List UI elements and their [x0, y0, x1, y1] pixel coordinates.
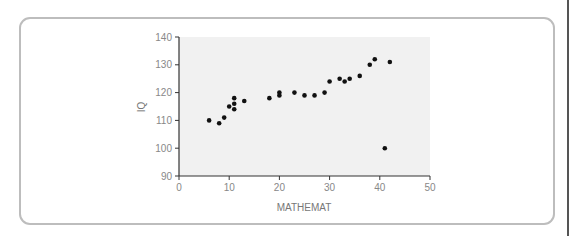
x-tick-label: 10: [224, 182, 236, 193]
data-point: [388, 60, 393, 65]
x-axis: 01020304050: [176, 176, 436, 193]
x-axis-title: MATHEMAT: [277, 202, 332, 213]
data-point: [372, 57, 377, 62]
data-point: [232, 101, 237, 106]
data-point: [327, 79, 332, 84]
data-point: [342, 79, 347, 84]
data-point: [217, 121, 222, 126]
data-point: [367, 63, 372, 68]
y-axis-title: IQ: [136, 102, 147, 113]
x-tick-label: 0: [176, 182, 182, 193]
y-tick-label: 90: [161, 171, 173, 182]
x-tick-label: 30: [324, 182, 336, 193]
y-tick-label: 110: [156, 115, 172, 126]
data-point: [292, 90, 297, 95]
scatter-plot: 90100110120130140 01020304050 MATHEMAT I…: [0, 0, 570, 236]
data-point: [277, 93, 282, 98]
data-point: [242, 99, 247, 104]
data-point: [347, 76, 352, 81]
data-point: [357, 74, 362, 79]
data-point: [232, 107, 237, 112]
data-point: [222, 115, 227, 120]
data-point: [207, 118, 212, 123]
x-tick-label: 50: [424, 182, 436, 193]
data-point: [227, 104, 232, 109]
y-tick-label: 100: [155, 143, 172, 154]
data-point: [337, 76, 342, 81]
data-point: [232, 96, 237, 101]
data-point: [322, 90, 327, 95]
data-point: [383, 146, 388, 151]
x-tick-label: 20: [274, 182, 286, 193]
x-tick-label: 40: [374, 182, 386, 193]
y-tick-label: 120: [155, 87, 172, 98]
y-tick-label: 130: [155, 59, 172, 70]
plot-area: [179, 37, 430, 176]
data-point: [267, 96, 272, 101]
data-point: [312, 93, 317, 98]
y-tick-label: 140: [155, 32, 172, 43]
y-axis: 90100110120130140: [155, 32, 179, 182]
data-point: [302, 93, 307, 98]
